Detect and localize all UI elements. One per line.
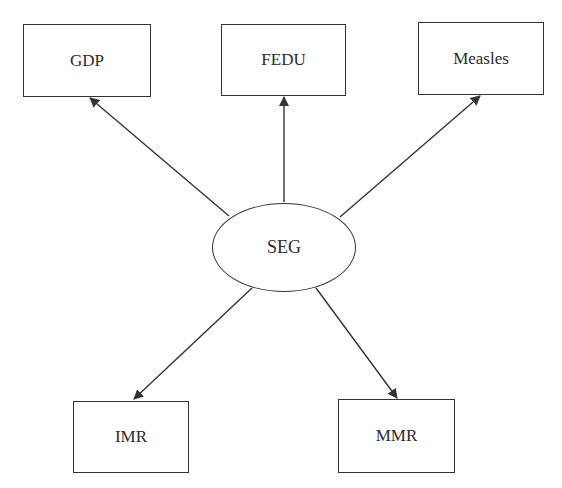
node-mmr-label: MMR [376,426,418,446]
node-seg-label: SEG [267,237,301,258]
node-measles: Measles [418,22,544,95]
node-measles-label: Measles [453,49,509,69]
edge-seg-measles [340,96,480,217]
node-fedu-label: FEDU [261,50,305,70]
node-imr-label: IMR [115,427,147,447]
node-fedu: FEDU [221,24,346,96]
edge-seg-gdp [90,98,229,216]
node-mmr: MMR [338,399,455,473]
node-gdp-label: GDP [70,51,104,71]
edge-seg-imr [134,288,252,399]
edge-seg-mmr [316,288,397,398]
node-seg: SEG [212,203,356,292]
node-imr: IMR [73,401,189,473]
node-gdp: GDP [23,24,151,97]
